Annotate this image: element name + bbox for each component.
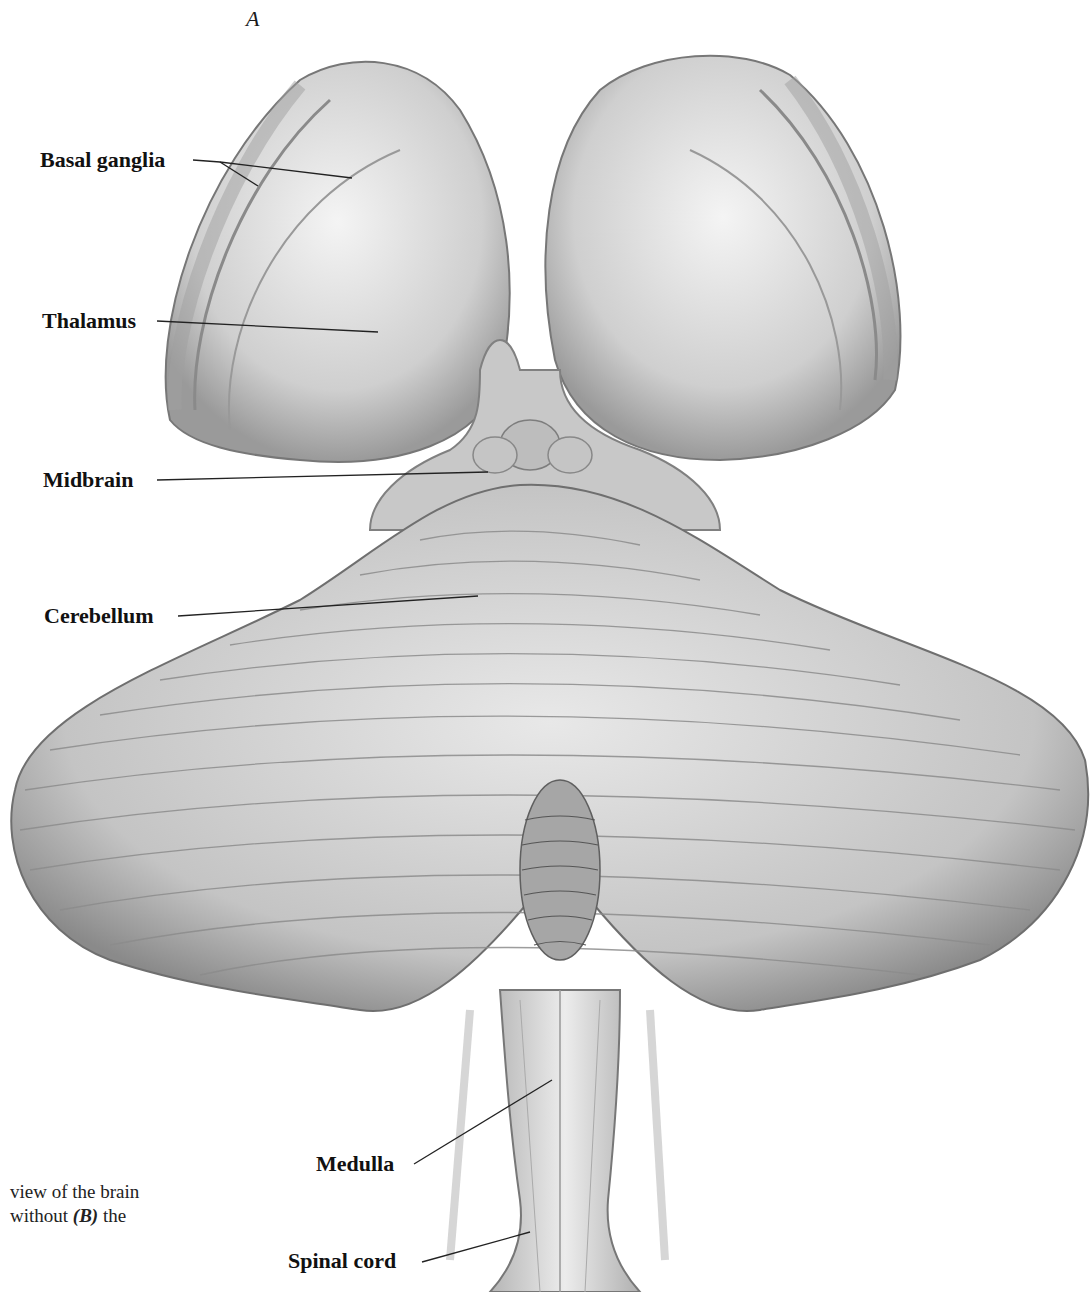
label-basal-ganglia: Basal ganglia xyxy=(40,147,165,173)
label-cerebellum: Cerebellum xyxy=(44,603,154,629)
label-medulla: Medulla xyxy=(316,1151,394,1177)
medulla-shape xyxy=(450,990,665,1292)
caption-panel-ref: (B) xyxy=(73,1205,98,1226)
brainstem-illustration xyxy=(0,0,1092,1292)
caption-line-2: without (B) the xyxy=(10,1204,139,1228)
cerebellum-shape xyxy=(11,485,1088,1011)
label-midbrain: Midbrain xyxy=(43,467,133,493)
caption-line-1: view of the brain xyxy=(10,1180,139,1204)
right-thalamus-shape xyxy=(545,56,900,460)
left-thalamus-shape xyxy=(166,62,510,462)
caption-line-2-prefix: without xyxy=(10,1205,73,1226)
figure-caption: view of the brain without (B) the xyxy=(10,1180,139,1228)
label-thalamus: Thalamus xyxy=(42,308,136,334)
caption-line-2-suffix: the xyxy=(98,1205,126,1226)
label-spinal-cord: Spinal cord xyxy=(288,1248,396,1274)
